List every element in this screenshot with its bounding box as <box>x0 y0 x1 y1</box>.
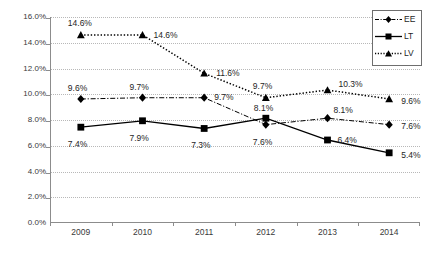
data-label-lv-2011: 11.6% <box>216 69 239 78</box>
x-tick-label: 2013 <box>298 228 358 237</box>
data-label-lv-2010: 14.6% <box>154 31 178 40</box>
gridline-2 <box>50 197 420 198</box>
data-label-lt-2009: 7.4% <box>68 140 87 149</box>
x-tick-label: 2011 <box>174 228 234 237</box>
legend-key-diamond-icon <box>375 14 402 25</box>
data-label-ee-2010: 9.7% <box>130 83 149 92</box>
x-axis-ticks <box>50 222 420 227</box>
y-tick-label: 16.0% <box>2 13 46 21</box>
legend-item-ee[interactable]: EE <box>373 11 421 28</box>
y-tick-label: 4.0% <box>2 168 46 176</box>
data-label-lv-2013: 10.3% <box>339 80 363 89</box>
data-label-ee-2014: 7.6% <box>401 122 420 131</box>
data-label-ee-2013: 8.1% <box>334 106 353 115</box>
gridline-4 <box>50 172 420 173</box>
legend-label: LV <box>404 49 414 58</box>
y-tick-label: 10.0% <box>2 90 46 98</box>
legend-item-lv[interactable]: LV <box>373 45 421 62</box>
data-label-lt-2014: 5.4% <box>401 151 420 160</box>
gridline-6 <box>50 146 420 147</box>
y-tick-label: 14.0% <box>2 39 46 47</box>
data-label-lv-2009: 14.6% <box>68 19 92 28</box>
x-tick-label: 2014 <box>359 228 419 237</box>
chart-legend: EE LT LV <box>372 10 422 66</box>
y-tick-label: 8.0% <box>2 116 46 124</box>
gridline-10 <box>50 94 420 95</box>
gridline-14 <box>50 43 420 44</box>
y-tick-label: 0.0% <box>2 219 46 227</box>
x-tick-label: 2009 <box>51 228 111 237</box>
data-label-lv-2014: 9.6% <box>401 97 420 106</box>
y-tick-label: 6.0% <box>2 142 46 150</box>
data-label-lt-2013: 6.4% <box>338 136 357 145</box>
data-label-lt-2011: 7.3% <box>191 141 210 150</box>
data-label-lt-2012: 8.1% <box>254 104 273 113</box>
data-label-ee-2012: 7.6% <box>253 138 272 147</box>
legend-label: EE <box>404 15 415 24</box>
y-tick-label: 12.0% <box>2 65 46 73</box>
data-label-lt-2010: 7.9% <box>130 134 149 143</box>
x-tick-label: 2012 <box>236 228 296 237</box>
plot-area <box>50 17 420 222</box>
data-label-lv-2012: 9.7% <box>253 82 272 91</box>
x-tick-label: 2010 <box>113 228 173 237</box>
data-label-ee-2009: 9.6% <box>68 84 87 93</box>
legend-label: LT <box>404 32 413 41</box>
y-tick-label: 2.0% <box>2 193 46 201</box>
y-axis-line <box>50 17 51 223</box>
legend-item-lt[interactable]: LT <box>373 28 421 45</box>
legend-key-square-icon <box>375 31 402 42</box>
line-chart: 16.0% 14.0% 12.0% 10.0% 8.0% 6.0% 4.0% 2… <box>0 0 429 258</box>
gridline-16 <box>50 17 420 18</box>
y-axis-labels: 16.0% 14.0% 12.0% 10.0% 8.0% 6.0% 4.0% 2… <box>0 17 46 223</box>
data-label-ee-2011: 9.7% <box>214 93 233 102</box>
gridline-8 <box>50 120 420 121</box>
legend-key-triangle-icon <box>375 48 402 59</box>
